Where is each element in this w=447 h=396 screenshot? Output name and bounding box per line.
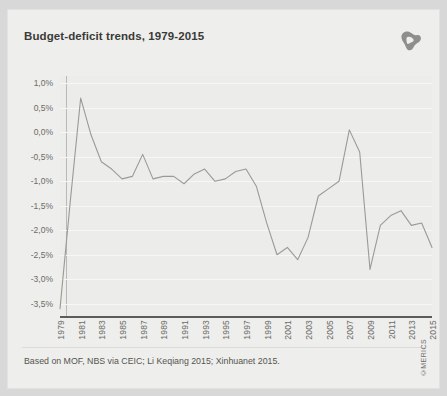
x-axis-tick-label: 2001 xyxy=(283,320,293,340)
y-axis-tick-label: -3,0% xyxy=(31,274,53,284)
x-axis-tick-label: 2015 xyxy=(428,320,438,340)
x-axis-tick-label: 1999 xyxy=(263,320,273,340)
x-axis-tick-label: 1985 xyxy=(118,320,128,340)
x-axis-tick-label: 2013 xyxy=(407,320,417,340)
x-axis-labels: 1979198119831985198719891991199319951997… xyxy=(60,320,432,360)
x-axis-tick-label: 2011 xyxy=(387,320,397,339)
y-axis-tick-label: -2,0% xyxy=(31,225,53,235)
y-axis-tick-label: 1,0% xyxy=(34,78,53,88)
x-axis-tick-label: 1989 xyxy=(159,320,169,340)
x-axis-line xyxy=(60,316,432,318)
x-axis-tick-label: 2009 xyxy=(366,320,376,340)
x-axis-tick-label: 1987 xyxy=(139,320,149,340)
page-title: Budget-deficit trends, 1979-2015 xyxy=(24,30,204,42)
y-axis-tick-label: -1,5% xyxy=(31,201,53,211)
plot-area: 1,0%0,5%0,0%-0,5%-1,0%-1,5%-2,0%-2,5%-3,… xyxy=(60,76,432,316)
y-axis-tick-label: -3,5% xyxy=(31,299,53,309)
footer-divider xyxy=(22,347,425,348)
y-axis-tick-label: -1,0% xyxy=(31,176,53,186)
chart-card: Budget-deficit trends, 1979-2015 1,0%0,5… xyxy=(8,10,439,388)
x-axis-tick-label: 2007 xyxy=(345,320,355,340)
y-axis-tick-label: -2,5% xyxy=(31,250,53,260)
x-axis-tick-label: 1981 xyxy=(77,320,87,340)
source-footnote: Based on MOF, NBS via CEIC; Li Keqiang 2… xyxy=(24,356,280,366)
x-axis-tick-label: 1997 xyxy=(242,320,252,340)
x-axis-tick-label: 2005 xyxy=(325,320,335,340)
merics-logo xyxy=(395,28,425,54)
x-axis-tick-label: 1979 xyxy=(56,320,66,340)
copyright-credit: ©MERICS xyxy=(420,339,427,376)
data-series-line xyxy=(60,76,432,316)
y-axis-tick-label: 0,5% xyxy=(34,103,53,113)
y-axis-tick-label: -0,5% xyxy=(31,152,53,162)
x-axis-tick-label: 1995 xyxy=(221,320,231,340)
x-axis-tick-label: 1983 xyxy=(97,320,107,340)
x-axis-tick-label: 1993 xyxy=(201,320,211,340)
y-axis-tick-label: 0,0% xyxy=(34,127,53,137)
x-axis-tick-label: 1991 xyxy=(180,320,190,340)
x-axis-tick-label: 2003 xyxy=(304,320,314,340)
